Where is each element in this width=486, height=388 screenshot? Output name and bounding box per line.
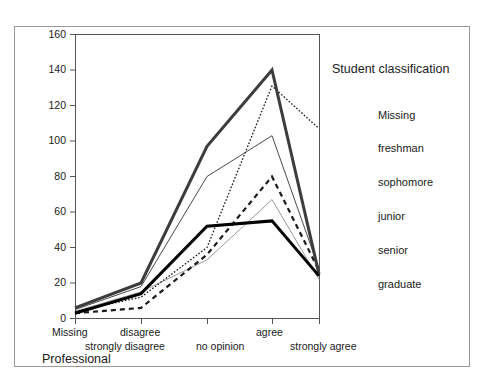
legend-label-junior: junior (378, 210, 405, 222)
legend-label-graduate: graduate (378, 278, 421, 290)
x-tick-label-disagree: disagree (120, 326, 160, 338)
x-tick-marks (76, 319, 320, 325)
y-tick-label: 0 (44, 312, 66, 324)
y-tick-label: 100 (44, 134, 66, 146)
series-junior (75, 136, 319, 310)
x-tick-label-no-opinion: no opinion (196, 340, 244, 352)
x-tick-label-strongly-disagree: strongly disagree (85, 340, 165, 352)
legend-label-freshman: freshman (378, 142, 424, 154)
y-tick-label: 60 (44, 205, 66, 217)
y-tick-label: 40 (44, 241, 66, 253)
y-tick-label: 20 (44, 276, 66, 288)
plot-axes (76, 34, 321, 319)
y-tick-label: 80 (44, 170, 66, 182)
series-group (75, 70, 319, 313)
legend-label-sophomore: sophomore (378, 176, 433, 188)
y-tick-marks (70, 35, 76, 319)
legend-label-senior: senior (378, 244, 408, 256)
x-tick-label-agree: agree (256, 326, 283, 338)
legend-title: Student classification (332, 62, 449, 76)
y-tick-label: 140 (44, 63, 66, 75)
y-tick-label: 120 (44, 99, 66, 111)
series-sophomore (75, 70, 319, 308)
y-tick-label: 160 (44, 28, 66, 40)
x-tick-label-missing: Missing (52, 326, 88, 338)
legend-label-missing: Missing (378, 109, 415, 121)
x-axis-title: Professional (42, 352, 111, 366)
x-tick-label-strongly-agree: strongly agree (290, 340, 357, 352)
series-graduate (75, 221, 319, 313)
